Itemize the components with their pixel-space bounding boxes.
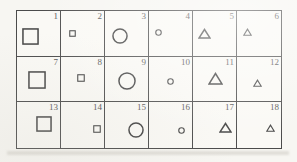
grid-cell-18: 18 [237, 102, 281, 148]
square-large-icon [22, 28, 39, 45]
cell-number: 11 [225, 57, 234, 67]
circle-small-icon [167, 78, 174, 85]
grid-cell-11: 11 [193, 57, 237, 103]
grid-cell-7: 7 [17, 57, 61, 103]
grid-cell-14: 14 [61, 102, 105, 148]
grid-cell-1: 1 [17, 11, 61, 57]
cell-number: 17 [225, 102, 234, 112]
cell-number: 13 [49, 102, 58, 112]
triangle-large-icon [198, 28, 211, 39]
grid-cell-5: 5 [193, 11, 237, 57]
cell-number: 4 [186, 11, 191, 21]
grid-cell-9: 9 [105, 57, 149, 103]
cell-number: 12 [270, 57, 279, 67]
grid-cell-13: 13 [17, 102, 61, 148]
scan-shadow [7, 151, 289, 155]
grid-cell-2: 2 [61, 11, 105, 57]
triangle-large-icon [219, 122, 232, 133]
grid-cell-12: 12 [237, 57, 281, 103]
square-small-icon [77, 74, 85, 82]
grid-cell-3: 3 [105, 11, 149, 57]
cell-number: 2 [98, 11, 103, 21]
cell-number: 3 [142, 11, 147, 21]
grid-cell-4: 4 [149, 11, 193, 57]
cell-number: 9 [142, 57, 147, 67]
triangle-small-icon [243, 28, 252, 36]
triangle-small-icon [266, 124, 275, 132]
cell-number: 8 [98, 57, 103, 67]
square-small-icon [93, 125, 101, 133]
cell-number: 14 [93, 102, 102, 112]
triangle-small-icon [253, 79, 262, 87]
cell-number: 15 [137, 102, 146, 112]
circle-large-icon [118, 72, 136, 90]
grid-cell-17: 17 [193, 102, 237, 148]
square-large-icon [28, 71, 46, 89]
cell-number: 16 [181, 102, 190, 112]
circle-small-icon [155, 29, 162, 36]
square-small-icon [69, 30, 76, 37]
cell-number: 7 [54, 57, 59, 67]
grid-cell-10: 10 [149, 57, 193, 103]
grid-cell-8: 8 [61, 57, 105, 103]
circle-small-icon [178, 127, 185, 134]
cell-number: 6 [275, 11, 280, 21]
cell-number: 1 [54, 11, 59, 21]
cell-number: 10 [181, 57, 190, 67]
cell-number: 5 [230, 11, 235, 21]
shape-grid: 1 2 3 4 5 6 7 8 9 10 11 [16, 10, 282, 149]
circle-large-icon [112, 28, 128, 44]
circle-large-icon [128, 122, 144, 138]
scanned-figure: 1 2 3 4 5 6 7 8 9 10 11 [0, 0, 297, 162]
triangle-large-icon [208, 72, 223, 85]
grid-cell-6: 6 [237, 11, 281, 57]
square-large-icon [36, 116, 52, 132]
cell-number: 18 [270, 102, 279, 112]
grid-cell-16: 16 [149, 102, 193, 148]
grid-cell-15: 15 [105, 102, 149, 148]
